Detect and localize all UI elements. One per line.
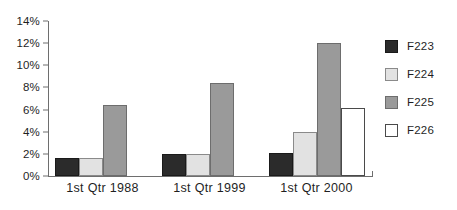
legend-swatch-icon [385,40,398,53]
legend-label: F226 [407,124,434,136]
bar-f223-1[interactable] [55,158,79,176]
legend-label: F225 [407,96,434,108]
legend-item-f226[interactable]: F226 [385,116,457,144]
bar-f224-2[interactable] [186,154,210,176]
legend-item-f224[interactable]: F224 [385,60,457,88]
bar-f224-1[interactable] [79,158,103,176]
y-axis-tick-label: 14% [16,15,40,27]
y-axis-tick-label: 2% [23,148,40,160]
legend-label: F223 [407,40,434,52]
bar-group [162,21,258,176]
legend-label: F224 [407,68,434,80]
x-axis-line [48,176,373,177]
legend-swatch-icon [385,124,398,137]
bar-group [55,21,151,176]
y-axis-tick-label: 6% [23,104,40,116]
bar-group [269,21,365,176]
y-axis: 0%2%4%6%8%10%12%14% [0,0,48,210]
y-axis-tick-label: 4% [23,126,40,138]
bar-f225-2[interactable] [210,83,234,176]
legend-item-f225[interactable]: F225 [385,88,457,116]
y-axis-tick-label: 10% [16,59,40,71]
plot-area [49,21,370,176]
legend: F223F224F225F226 [385,32,457,144]
legend-swatch-icon [385,96,398,109]
bar-f224-3[interactable] [293,132,317,176]
y-axis-tick-label: 8% [23,81,40,93]
legend-item-f223[interactable]: F223 [385,32,457,60]
x-axis-end-tick [372,171,373,177]
bar-chart: 0%2%4%6%8%10%12%14% F223F224F225F226 1st… [0,0,457,210]
bar-f225-3[interactable] [317,43,341,176]
y-axis-tick-label: 12% [16,37,40,49]
bar-f223-3[interactable] [269,153,293,176]
x-axis-category-label: 1st Qtr 1988 [49,181,156,195]
y-axis-tick-label: 0% [23,170,40,182]
legend-swatch-icon [385,68,398,81]
bar-f226-3[interactable] [341,108,365,176]
x-axis-category-label: 1st Qtr 1999 [156,181,263,195]
bar-f225-1[interactable] [103,105,127,176]
bar-f223-2[interactable] [162,154,186,176]
x-axis-category-label: 1st Qtr 2000 [263,181,370,195]
